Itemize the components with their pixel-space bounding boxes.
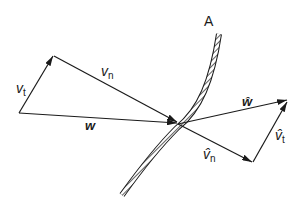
label-v-hat-t: v̂t (275, 127, 285, 145)
label-w-hat: ŵ (242, 94, 253, 109)
vector-v-t (19, 56, 53, 113)
label-v-hat-n: v̂n (203, 146, 216, 164)
label-w: w (85, 118, 96, 133)
vector-v-n (54, 56, 177, 122)
label-v-n: vn (101, 63, 114, 81)
surface-a (122, 34, 219, 195)
label-v-t: vt (16, 80, 26, 98)
surface-label: A (204, 13, 214, 29)
vector-w (19, 113, 177, 123)
vector-reflection-diagram: A vt vn w ŵ v̂n v̂t (0, 0, 304, 217)
